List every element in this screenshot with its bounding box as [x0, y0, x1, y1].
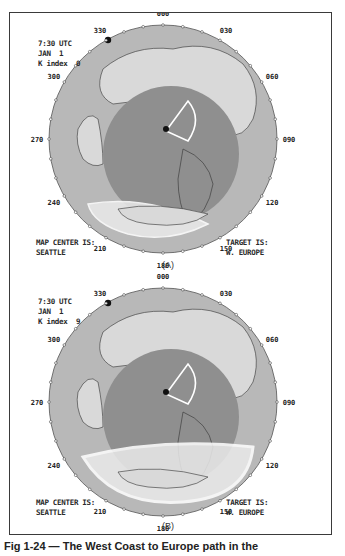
- bearing-tick: [201, 294, 204, 297]
- map-center-marker: [163, 126, 169, 132]
- bearing-label: 300: [48, 73, 61, 81]
- bearing-tick: [105, 39, 108, 42]
- bearing-tick: [162, 24, 165, 27]
- bearing-tick: [249, 211, 252, 214]
- bearing-tick: [123, 31, 126, 34]
- bearing-tick: [49, 381, 52, 384]
- bearing-label: 210: [94, 508, 107, 516]
- bearing-tick: [181, 513, 184, 516]
- bearing-tick: [162, 515, 165, 518]
- bearing-tick: [276, 401, 279, 404]
- bearing-tick: [142, 288, 145, 291]
- bearing-tick: [181, 25, 184, 28]
- bearing-tick: [260, 344, 263, 347]
- bearing-tick: [142, 25, 145, 28]
- bearing-tick: [142, 513, 145, 516]
- target-value: W. EUROPE: [226, 508, 264, 517]
- k-index-label: K index 0: [38, 59, 80, 68]
- bearing-tick: [55, 362, 58, 365]
- bearing-tick: [274, 381, 277, 384]
- bearing-tick: [274, 157, 277, 160]
- map-center-value: SEATTLE: [36, 248, 66, 257]
- k-index-label: K index 9: [38, 317, 80, 326]
- bearing-tick: [123, 245, 126, 248]
- map-center-label: MAP CENTER IS:: [36, 238, 95, 247]
- bearing-tick: [55, 440, 58, 443]
- bearing-tick: [201, 508, 204, 511]
- bearing-label: 210: [94, 245, 107, 253]
- bearing-tick: [201, 31, 204, 34]
- bearing-label: 120: [266, 462, 279, 470]
- bearing-tick: [63, 195, 66, 198]
- bearing-tick: [201, 245, 204, 248]
- date-label: JAN 1: [38, 307, 63, 316]
- bearing-label: 060: [266, 336, 279, 344]
- figure-caption: Fig 1-24 — The West Coast to Europe path…: [4, 540, 258, 552]
- bearing-label: 270: [31, 136, 44, 144]
- bearing-tick: [274, 420, 277, 423]
- bearing-label: 030: [220, 27, 233, 35]
- bearing-tick: [49, 420, 52, 423]
- bearing-tick: [269, 362, 272, 365]
- bearing-tick: [63, 81, 66, 84]
- figure-frame: 000030060090120150180210240270300330 7:3…: [9, 12, 332, 535]
- bearing-tick: [260, 195, 263, 198]
- bearing-label: 270: [31, 399, 44, 407]
- bearing-tick: [63, 458, 66, 461]
- bearing-tick: [219, 236, 222, 239]
- bearing-label: 090: [283, 136, 296, 144]
- bearing-tick: [181, 250, 184, 253]
- bearing-tick: [49, 157, 52, 160]
- bearing-label: 000: [157, 13, 170, 18]
- bearing-tick: [88, 225, 91, 228]
- map-center-value: SEATTLE: [36, 508, 66, 517]
- bearing-tick: [235, 50, 238, 53]
- target-value: W. EUROPE: [226, 248, 264, 257]
- k-index-value: 9: [76, 317, 80, 326]
- bearing-tick: [49, 118, 52, 121]
- panel-a: 000030060090120150180210240270300330 7:3…: [10, 13, 333, 275]
- k-index-value: 0: [76, 59, 80, 68]
- bearing-label: 300: [48, 336, 61, 344]
- bearing-tick: [269, 440, 272, 443]
- bearing-tick: [55, 177, 58, 180]
- bearing-tick: [274, 118, 277, 121]
- bearing-tick: [249, 64, 252, 67]
- bearing-tick: [219, 499, 222, 502]
- bearing-tick: [142, 250, 145, 253]
- bearing-tick: [74, 474, 77, 477]
- target-label: TARGET IS:: [226, 498, 268, 507]
- bearing-tick: [55, 99, 58, 102]
- panel-label: (B): [162, 521, 174, 531]
- bearing-tick: [276, 138, 279, 141]
- bearing-tick: [235, 225, 238, 228]
- bearing-label: 330: [94, 290, 107, 298]
- bearing-label: 240: [48, 462, 61, 470]
- bearing-tick: [235, 313, 238, 316]
- bearing-tick: [48, 401, 51, 404]
- bearing-tick: [123, 294, 126, 297]
- bearing-tick: [105, 302, 108, 305]
- bearing-label: 330: [94, 27, 107, 35]
- bearing-tick: [162, 287, 165, 290]
- bearing-tick: [235, 488, 238, 491]
- bearing-tick: [181, 288, 184, 291]
- bearing-tick: [219, 39, 222, 42]
- bearing-tick: [269, 177, 272, 180]
- bearing-label: 060: [266, 73, 279, 81]
- target-label: TARGET IS:: [226, 238, 268, 247]
- bearing-tick: [260, 458, 263, 461]
- bearing-tick: [63, 344, 66, 347]
- bearing-tick: [105, 499, 108, 502]
- bearing-label: 120: [266, 199, 279, 207]
- bearing-label: 000: [157, 274, 170, 281]
- bearing-tick: [269, 99, 272, 102]
- bearing-tick: [260, 81, 263, 84]
- bearing-tick: [88, 488, 91, 491]
- bearing-tick: [105, 236, 108, 239]
- time-label: 7:30 UTC: [38, 39, 72, 48]
- bearing-tick: [249, 474, 252, 477]
- bearing-tick: [123, 508, 126, 511]
- bearing-tick: [88, 50, 91, 53]
- panel-label: (A): [162, 260, 174, 270]
